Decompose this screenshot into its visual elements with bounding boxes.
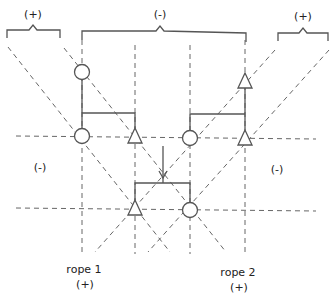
triangle-marker: [128, 128, 142, 143]
bracket-right-label: (+): [294, 10, 312, 23]
circle-marker: [75, 65, 90, 80]
horizontal-guide-lower: [16, 208, 316, 211]
circle-marker: [183, 131, 198, 146]
bracket-middle: [82, 26, 246, 42]
rope2-name-label: rope 2: [220, 266, 255, 279]
bracket-left-label: (+): [24, 8, 42, 21]
bracket-right: [278, 28, 328, 41]
rope1-name-label: rope 1: [66, 263, 101, 276]
rope1-sign-label: (+): [76, 278, 94, 291]
horizontal-guide-upper: [16, 136, 316, 139]
connector-left-bar: [82, 113, 135, 128]
bracket-middle-label: (-): [154, 8, 167, 21]
diagonal-left-inner: [64, 48, 226, 252]
markers: [75, 65, 253, 218]
connector-lower-bar: [135, 183, 190, 202]
triangle-marker: [128, 200, 142, 215]
region-right-label: (-): [271, 163, 284, 176]
rope2-sign-label: (+): [230, 281, 248, 294]
region-left-label: (-): [34, 161, 47, 174]
diagonal-right-outer: [148, 50, 329, 252]
rope-sign-diagram: [0, 0, 334, 297]
triangle-marker: [238, 130, 252, 145]
solid-connectors: [82, 80, 245, 202]
bracket-left: [7, 25, 60, 38]
dashed-guide-lines: [8, 40, 329, 254]
circle-marker: [183, 203, 198, 218]
connector-right-bar: [190, 114, 245, 130]
diagonal-left-outer: [8, 47, 170, 252]
triangle-marker: [238, 73, 252, 88]
brackets: [7, 25, 328, 42]
circle-marker: [75, 129, 90, 144]
